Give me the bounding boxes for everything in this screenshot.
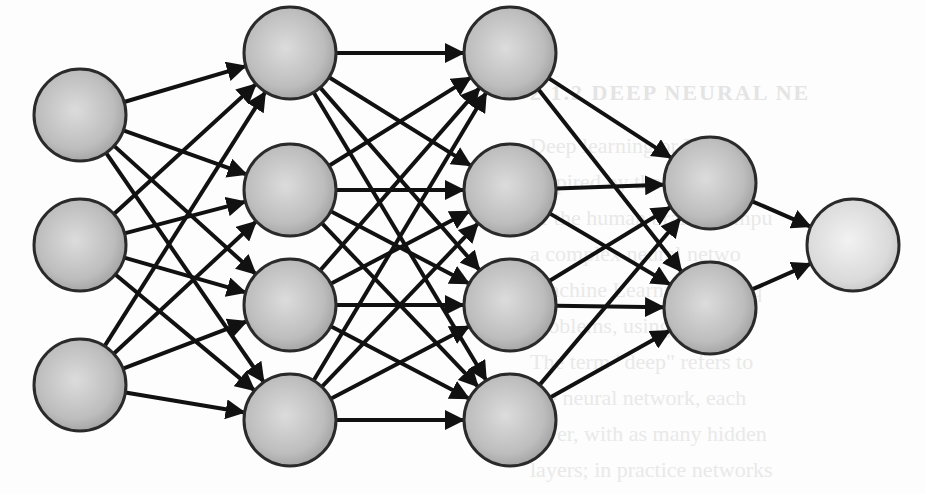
input-layer-neuron <box>34 69 126 161</box>
connection-arrow <box>114 85 255 214</box>
connection-arrow <box>752 201 810 226</box>
connection-arrow <box>124 66 245 102</box>
hidden-layer-1-neuron <box>244 374 336 466</box>
hidden-layer-1-neuron <box>244 259 336 351</box>
connection-arrow <box>550 331 669 398</box>
hidden-layer-2-neuron <box>464 144 556 236</box>
connections <box>105 53 810 420</box>
neural-network-diagram <box>0 0 925 494</box>
connection-arrow <box>125 393 243 413</box>
hidden-layer-3-neuron <box>664 137 756 229</box>
hidden-layer-2-neuron <box>464 259 556 351</box>
connection-arrow <box>556 185 663 189</box>
connection-arrow <box>550 213 670 284</box>
connection-arrow <box>752 264 810 290</box>
hidden-layer-3-neuron <box>664 262 756 354</box>
connection-arrow <box>549 78 671 157</box>
hidden-layer-1-neuron <box>244 144 336 236</box>
connection-arrow <box>556 306 663 308</box>
hidden-layer-2-neuron <box>464 7 556 99</box>
input-layer-neuron <box>34 199 126 291</box>
hidden-layer-1-neuron <box>244 7 336 99</box>
hidden-layer-2-neuron <box>464 374 556 466</box>
connection-arrow <box>114 146 255 274</box>
output-layer-neuron <box>807 199 899 291</box>
input-layer-neuron <box>34 339 126 431</box>
connection-arrow <box>549 207 670 281</box>
